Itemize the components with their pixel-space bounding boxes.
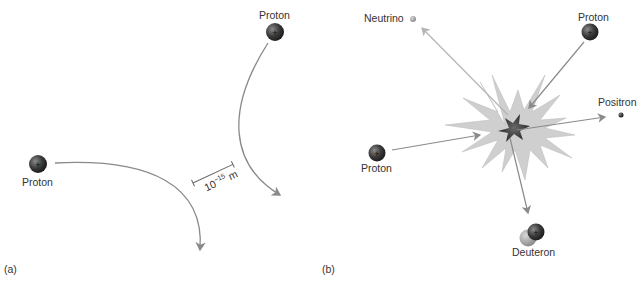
label-positron: Positron — [598, 96, 637, 108]
svg-text:+: + — [374, 149, 379, 159]
label-proton-top-b: Proton — [578, 11, 609, 23]
arrow-left-proton — [392, 135, 480, 150]
trajectory-top-proton — [239, 43, 280, 195]
neutrino-particle — [410, 16, 416, 22]
trajectory-left-proton — [55, 162, 200, 250]
panel-a-graphics: + + — [29, 23, 284, 250]
panel-b-graphics: + + + — [369, 16, 624, 247]
proton-fusion-diagram: + + + + + — [0, 0, 641, 281]
panel-a-label: (a) — [4, 263, 17, 275]
panel-b-label: (b) — [322, 263, 335, 275]
label-proton-top-a: Proton — [259, 9, 290, 21]
svg-text:+: + — [35, 160, 40, 170]
svg-text:+: + — [272, 28, 277, 38]
label-proton-left-a: Proton — [22, 176, 53, 188]
svg-text:+: + — [587, 28, 592, 38]
label-neutrino: Neutrino — [364, 12, 404, 24]
positron-particle — [619, 113, 624, 118]
svg-text:+: + — [533, 228, 538, 238]
label-deuteron: Deuteron — [512, 246, 555, 258]
diagram-graphics: + + + + + — [0, 0, 641, 281]
arrow-neutrino — [422, 28, 508, 115]
label-proton-left-b: Proton — [361, 162, 392, 174]
